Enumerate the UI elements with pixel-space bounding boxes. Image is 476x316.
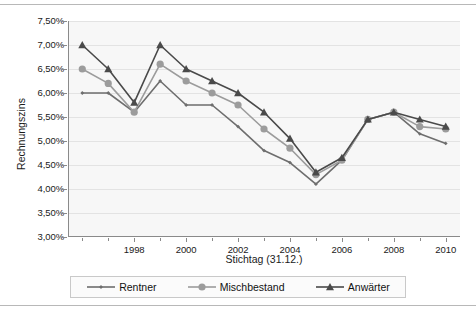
data-point [286,145,293,152]
figure-bottom-rule [0,305,476,306]
x-axis-tick-mark [394,238,395,242]
series-mischbestand [79,61,450,179]
x-axis-tick-mark [238,238,239,242]
y-axis-tick-label: 7,50% [0,16,64,26]
y-axis-tick-label: 7,00% [0,40,64,50]
legend-item-anw-rter[interactable]: Anwärter [315,281,390,293]
legend-label: Mischbestand [219,281,285,293]
x-axis-minor-tick-mark [368,238,369,241]
figure-top-rule [0,4,476,5]
y-axis-tick-mark [62,117,67,118]
data-point [157,61,164,68]
y-axis-tick-label: 3,50% [0,208,64,218]
y-axis-tick-label: 4,50% [0,160,64,170]
legend-marker-glyph [99,285,103,289]
legend-marker-small-diamond-icon [86,281,116,293]
x-axis-minor-tick-mark [420,238,421,241]
data-point [131,109,138,116]
x-axis-minor-tick-mark [316,238,317,241]
x-axis-tick-mark [342,238,343,242]
x-axis-minor-tick-mark [160,238,161,241]
legend-item-rentner[interactable]: Rentner [86,281,156,293]
y-axis-tick-mark [62,69,67,70]
y-axis-tick-mark [62,21,67,22]
legend-label: Rentner [118,281,156,293]
data-point [416,123,423,130]
x-axis-minor-tick-mark [108,238,109,241]
data-point [105,80,112,87]
x-axis-minor-tick-mark [212,238,213,241]
chart-series-layer [68,21,460,237]
data-point [78,41,86,48]
y-axis-tick-mark [62,45,67,46]
data-point [156,41,164,48]
y-axis-tick-mark [62,165,67,166]
data-point [80,91,84,95]
legend-label: Anwärter [347,281,390,293]
x-axis-tick-mark [134,238,135,242]
data-point [234,89,242,96]
x-axis-minor-tick-mark [82,238,83,241]
legend-marker-circle-icon [187,281,217,293]
series-line [82,64,445,174]
y-axis-tick-label: 4,00% [0,184,64,194]
legend-marker-glyph [198,283,205,290]
data-point [208,89,215,96]
data-point [208,77,216,84]
x-axis-title: Stichtag (31.12.) [68,253,460,265]
series-anw-rter [78,41,449,175]
y-axis-tick-label: 5,00% [0,136,64,146]
y-axis-tick-mark [62,213,67,214]
y-axis-tick-mark [62,93,67,94]
data-point [234,101,241,108]
series-rentner [80,79,447,186]
y-axis-tick-label: 3,00% [0,232,64,242]
legend-item-mischbestand[interactable]: Mischbestand [187,281,285,293]
x-axis-minor-tick-mark [264,238,265,241]
data-point [79,65,86,72]
x-axis-tick-mark [290,238,291,242]
y-axis-tick-label: 6,50% [0,64,64,74]
y-axis-tick-label: 6,00% [0,88,64,98]
x-axis-tick-mark [446,238,447,242]
legend-marker-triangle-icon [315,281,345,293]
data-point [260,125,267,132]
y-axis-tick-mark [62,189,67,190]
y-axis-tick-label: 5,50% [0,112,64,122]
y-axis-tick-mark [62,141,67,142]
y-axis-tick-mark [62,237,67,238]
y-axis-tick-labels: 7,50%7,00%6,50%6,00%5,50%5,00%4,50%4,00%… [0,0,64,316]
chart-legend: RentnerMischbestandAnwärter [70,276,406,298]
chart-figure: Rechnungszins 7,50%7,00%6,50%6,00%5,50%5… [0,0,476,316]
data-point [183,77,190,84]
x-axis-tick-mark [186,238,187,242]
